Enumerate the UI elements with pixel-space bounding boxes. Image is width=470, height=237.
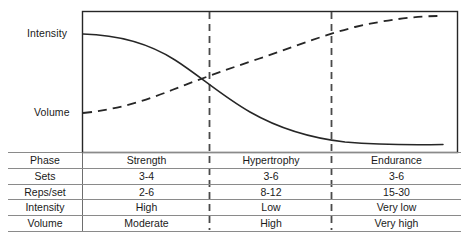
table-body: Phase Strength Hypertrophy Endurance Set… [8, 153, 461, 232]
cell-phase-endurance: Endurance [332, 153, 461, 169]
phase-parameters-table: Phase Strength Hypertrophy Endurance Set… [8, 152, 461, 232]
cell-intensity-hypertrophy: Low [210, 200, 332, 216]
periodization-figure: Intensity Volume Phase Strength Hypertro… [0, 0, 470, 237]
cell-volume-hypertrophy: High [210, 216, 332, 232]
row-label-sets: Sets [8, 168, 83, 184]
row-label-phase: Phase [8, 153, 83, 169]
table-row: Sets 3-4 3-6 3-6 [8, 168, 461, 184]
cell-phase-strength: Strength [83, 153, 211, 169]
cell-sets-hypertrophy: 3-6 [210, 168, 332, 184]
table-row: Intensity High Low Very low [8, 200, 461, 216]
volume-curve [83, 16, 440, 113]
row-label-intensity: Intensity [8, 200, 83, 216]
cell-volume-endurance: Very high [332, 216, 461, 232]
axis-label-volume: Volume [34, 106, 70, 118]
table-row: Reps/set 2-6 8-12 15-30 [8, 184, 461, 200]
row-label-volume: Volume [8, 216, 83, 232]
cell-intensity-strength: High [83, 200, 211, 216]
table-row: Volume Moderate High Very high [8, 216, 461, 232]
cell-reps-hypertrophy: 8-12 [210, 184, 332, 200]
cell-reps-strength: 2-6 [83, 184, 211, 200]
table-bottom-rule [8, 231, 460, 232]
cell-intensity-endurance: Very low [332, 200, 461, 216]
cell-volume-strength: Moderate [83, 216, 211, 232]
plot-frame [83, 12, 458, 153]
axis-label-intensity: Intensity [27, 27, 67, 39]
cell-sets-endurance: 3-6 [332, 168, 461, 184]
cell-phase-hypertrophy: Hypertrophy [210, 153, 332, 169]
intensity-curve [83, 34, 443, 145]
cell-reps-endurance: 15-30 [332, 184, 461, 200]
row-label-reps-per-set: Reps/set [8, 184, 83, 200]
cell-sets-strength: 3-4 [83, 168, 211, 184]
table-row: Phase Strength Hypertrophy Endurance [8, 153, 461, 169]
